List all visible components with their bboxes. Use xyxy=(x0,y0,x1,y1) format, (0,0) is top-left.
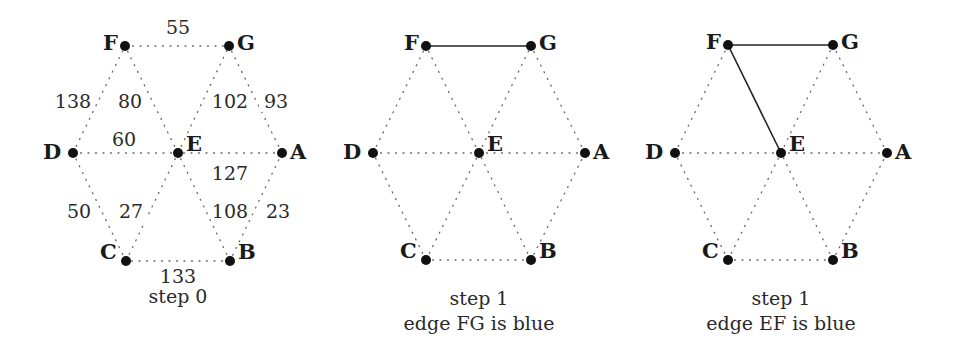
node-label-e: E xyxy=(789,131,805,156)
node-label-b: B xyxy=(841,238,859,263)
edge-caption: edge FG is blue xyxy=(404,312,555,334)
weight-label-be: 108 xyxy=(212,200,248,222)
weight-label-ab: 23 xyxy=(266,200,290,222)
edge-ag-dotted xyxy=(833,45,887,153)
node-g xyxy=(828,40,838,50)
panel-step-1-edge-fg: FGDEACBstep 1edge FG is blue xyxy=(343,30,610,334)
weight-label-eg: 102 xyxy=(212,90,248,112)
node-c xyxy=(121,256,131,266)
edge-caption: edge EF is blue xyxy=(706,312,856,334)
node-label-c: C xyxy=(400,238,417,263)
node-label-a: A xyxy=(592,139,610,164)
panel-step-1-edge-ef: FGDEACBstep 1edge EF is blue xyxy=(645,29,912,334)
edge-ce-dotted xyxy=(426,153,479,260)
node-label-d: D xyxy=(343,139,361,164)
edge-ef-dotted xyxy=(426,46,479,153)
node-g xyxy=(224,41,234,51)
node-label-f: F xyxy=(404,30,419,55)
node-label-d: D xyxy=(645,139,663,164)
edge-df-dotted xyxy=(373,46,426,153)
edge-df-dotted xyxy=(675,45,728,153)
node-e xyxy=(474,148,484,158)
node-b xyxy=(225,256,235,266)
edge-ce-dotted xyxy=(728,153,781,260)
node-e xyxy=(776,148,786,158)
node-e xyxy=(173,148,183,158)
node-g xyxy=(526,41,536,51)
node-b xyxy=(526,255,536,265)
node-label-f: F xyxy=(706,29,721,54)
node-label-d: D xyxy=(43,139,61,164)
node-c xyxy=(421,255,431,265)
node-label-g: G xyxy=(237,30,255,55)
node-label-b: B xyxy=(238,239,256,264)
weight-label-ae: 127 xyxy=(212,162,248,184)
edge-be-dotted xyxy=(479,153,531,260)
node-label-g: G xyxy=(841,29,859,54)
edge-ag-dotted xyxy=(531,46,585,153)
node-label-f: F xyxy=(103,30,118,55)
node-b xyxy=(828,255,838,265)
node-label-c: C xyxy=(702,238,719,263)
node-label-b: B xyxy=(539,238,557,263)
weight-label-ag: 93 xyxy=(264,90,288,112)
node-f xyxy=(120,41,130,51)
node-label-c: C xyxy=(100,239,117,264)
mst-steps-diagram: FGDEACB55138801029360127502710823133step… xyxy=(0,0,956,359)
node-a xyxy=(277,148,287,158)
weight-label-fg: 55 xyxy=(166,16,190,38)
weight-label-df: 138 xyxy=(55,90,91,112)
node-label-e: E xyxy=(186,131,202,156)
node-d xyxy=(670,148,680,158)
step-caption: step 1 xyxy=(752,287,811,309)
node-f xyxy=(723,40,733,50)
node-label-g: G xyxy=(539,30,557,55)
weight-label-ce: 27 xyxy=(119,200,143,222)
weight-label-bc: 133 xyxy=(160,265,196,287)
step-caption: step 1 xyxy=(450,287,509,309)
node-c xyxy=(723,255,733,265)
panel-step-0: FGDEACB55138801029360127502710823133step… xyxy=(43,16,307,307)
weight-label-de: 60 xyxy=(112,128,136,150)
edge-ef-selected xyxy=(728,45,781,153)
node-label-e: E xyxy=(487,131,503,156)
node-a xyxy=(580,148,590,158)
weight-label-ef: 80 xyxy=(118,90,142,112)
node-label-a: A xyxy=(289,139,307,164)
node-a xyxy=(882,148,892,158)
node-d xyxy=(368,148,378,158)
weight-label-cd: 50 xyxy=(67,200,91,222)
step-caption: step 0 xyxy=(149,285,208,307)
node-f xyxy=(421,41,431,51)
node-d xyxy=(68,148,78,158)
edge-be-dotted xyxy=(781,153,833,260)
node-label-a: A xyxy=(894,139,912,164)
